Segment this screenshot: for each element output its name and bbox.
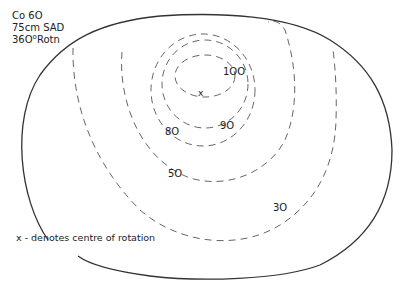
isodose-label-90: 9O <box>220 120 234 131</box>
rotation-label: 36OoRotn <box>12 34 64 46</box>
isodose-90 <box>162 40 248 128</box>
centre-of-rotation-marker: x <box>198 88 203 98</box>
isodose-label-30: 3O <box>273 202 287 213</box>
isodose-30 <box>73 48 336 241</box>
source-label: Co 6O <box>12 10 64 22</box>
beam-parameters: Co 6O 75cm SAD 36OoRotn <box>12 10 64 46</box>
isodose-50 <box>122 21 295 181</box>
distance-label: 75cm SAD <box>12 22 64 34</box>
isodose-label-80: 8O <box>165 126 179 137</box>
isodose-label-50: 5O <box>168 168 182 179</box>
isodose-label-100: 1OO <box>223 66 245 77</box>
legend-text: x - denotes centre of rotation <box>16 232 155 243</box>
